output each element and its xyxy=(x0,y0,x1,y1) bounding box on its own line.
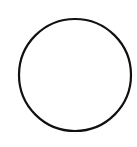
circle-outline xyxy=(19,19,131,131)
circle-graphic xyxy=(0,0,137,147)
drawing-canvas xyxy=(0,0,137,147)
